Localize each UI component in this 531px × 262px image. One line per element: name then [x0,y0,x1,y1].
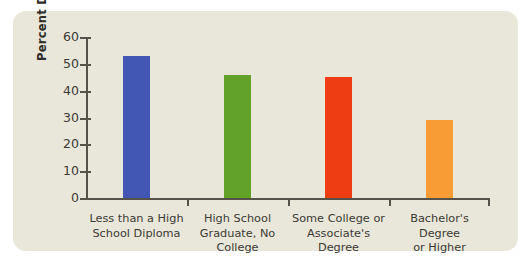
y-axis-tick-mark [80,198,91,200]
y-axis-tick-mark [80,144,91,146]
y-axis-tick-label: 50 [63,56,79,71]
plot-area: 0102030405060 Less than a High School Di… [86,29,490,200]
y-axis-tick-mark [80,64,91,66]
y-axis-tick-mark [80,171,91,173]
y-axis-title: Percent Divorced [35,0,49,61]
x-axis-tick-mark [488,198,490,206]
y-axis-tick-mark [80,37,91,39]
chart-panel: Percent Divorced 0102030405060 Less than… [13,11,518,251]
x-axis-tick-mark [288,198,290,206]
x-axis-tick-mark [389,198,391,206]
x-axis-category-label: Some College or Associate's Degree [288,212,389,256]
y-axis-tick-label: 0 [71,190,79,205]
y-axis-tick-mark [80,91,91,93]
y-axis-tick-label: 30 [63,110,79,125]
y-axis-tick-label: 20 [63,136,79,151]
y-axis-tick-mark [80,118,91,120]
bar [426,120,453,198]
bar [224,75,251,198]
x-axis-category-label: Less than a High School Diploma [86,212,187,241]
bar [123,56,150,198]
y-axis-tick-label: 10 [63,163,79,178]
x-axis-category-label: High School Graduate, No College [187,212,288,256]
y-axis-tick-label: 40 [63,83,79,98]
x-axis-tick-mark [187,198,189,206]
x-axis-category-label: Bachelor's Degree or Higher [389,212,490,256]
bar [325,77,352,198]
y-axis-tick-label: 60 [63,29,79,44]
